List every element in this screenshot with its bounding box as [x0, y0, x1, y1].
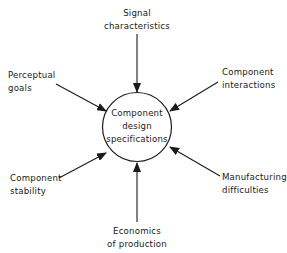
center-line-2: design	[97, 120, 177, 133]
signal-line-2: characteristics	[97, 20, 177, 33]
manufacturing-line-1: Manufacturing	[222, 171, 287, 184]
center-line-3: specifications	[97, 133, 177, 146]
center-line-1: Component	[97, 107, 177, 120]
label-signal-characteristics: Signal characteristics	[97, 7, 177, 33]
stability-line-1: Component	[10, 172, 62, 185]
economics-line-2: of production	[92, 238, 182, 251]
arrow-interactions	[170, 82, 218, 111]
interactions-line-1: Component	[222, 66, 275, 79]
label-perceptual-goals: Perceptual goals	[8, 69, 55, 95]
perceptual-line-1: Perceptual	[8, 69, 55, 82]
manufacturing-line-2: difficulties	[222, 184, 287, 197]
economics-line-1: Economics	[92, 225, 182, 238]
arrow-stability	[59, 153, 106, 178]
label-component-stability: Component stability	[10, 172, 62, 198]
label-economics-of-production: Economics of production	[92, 225, 182, 251]
label-component-interactions: Component interactions	[222, 66, 275, 92]
center-node-label: Component design specifications	[97, 107, 177, 146]
perceptual-line-2: goals	[8, 82, 55, 95]
component-design-diagram: Component design specifications Signal c…	[0, 0, 287, 253]
label-manufacturing-difficulties: Manufacturing difficulties	[222, 171, 287, 197]
interactions-line-2: interactions	[222, 79, 275, 92]
signal-line-1: Signal	[97, 7, 177, 20]
stability-line-2: stability	[10, 185, 62, 198]
arrow-manufacturing	[170, 147, 220, 176]
